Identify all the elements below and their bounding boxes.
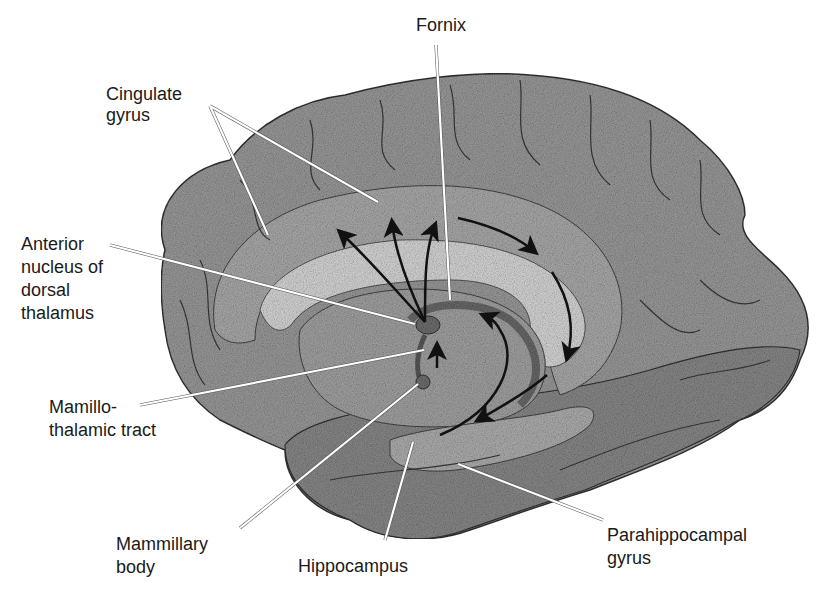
label-anterior-nucleus: Anterior nucleus of dorsal thalamus <box>21 233 103 325</box>
label-cingulate-gyrus: Cingulate gyrus <box>106 84 182 126</box>
label-line: gyrus <box>106 105 182 126</box>
label-line: Mammillary <box>116 533 208 556</box>
label-line: Cingulate <box>106 84 182 105</box>
label-fornix: Fornix <box>416 15 466 36</box>
label-line: gyrus <box>607 547 747 570</box>
label-line: thalamic tract <box>49 419 156 442</box>
label-mammillary-body: Mammillary body <box>116 533 208 579</box>
label-line: Hippocampus <box>298 556 408 577</box>
label-line: Parahippocampal <box>607 524 747 547</box>
label-line: Mamillo- <box>49 396 156 419</box>
label-line: Fornix <box>416 15 466 36</box>
label-mamillothalamic-tract: Mamillo- thalamic tract <box>49 396 156 442</box>
label-parahippocampal-gyrus: Parahippocampal gyrus <box>607 524 747 570</box>
label-line: thalamus <box>21 302 103 325</box>
cerebral-hemisphere <box>161 74 808 539</box>
label-line: Anterior <box>21 233 103 256</box>
label-line: body <box>116 556 208 579</box>
label-line: dorsal <box>21 279 103 302</box>
label-line: nucleus of <box>21 256 103 279</box>
label-hippocampus: Hippocampus <box>298 556 408 577</box>
